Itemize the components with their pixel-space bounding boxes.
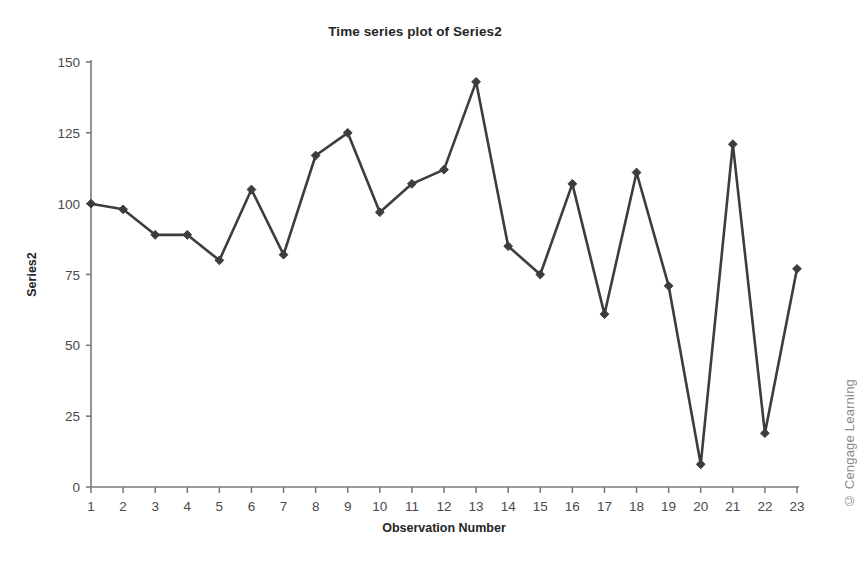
copyright-credit: © Cengage Learning: [842, 379, 857, 508]
data-point-marker: [247, 185, 256, 194]
x-tick-label: 19: [661, 499, 676, 514]
data-point-marker: [440, 165, 449, 174]
x-tick-label: 7: [280, 499, 288, 514]
data-point-marker: [279, 250, 288, 259]
x-tick-label: 18: [629, 499, 644, 514]
x-tick-label: 20: [693, 499, 708, 514]
data-point-marker: [472, 77, 481, 86]
y-tick-label: 125: [57, 126, 80, 141]
data-point-marker: [728, 140, 737, 149]
x-tick-label: 23: [789, 499, 804, 514]
data-point-marker: [632, 168, 641, 177]
x-tick-label: 2: [119, 499, 127, 514]
y-tick-label: 100: [57, 197, 80, 212]
x-tick-label: 1: [87, 499, 95, 514]
data-point-marker: [568, 179, 577, 188]
chart-figure: Time series plot of Series2 025507510012…: [0, 0, 863, 566]
x-tick-label: 15: [533, 499, 548, 514]
x-tick-label: 14: [501, 499, 517, 514]
y-tick-label: 0: [72, 480, 80, 495]
data-line-series2: [91, 82, 797, 465]
x-tick-label: 3: [151, 499, 159, 514]
y-tick-label: 25: [65, 409, 80, 424]
y-tick-label: 75: [65, 268, 80, 283]
x-axis-title: Observation Number: [382, 521, 506, 535]
x-tick-label: 5: [216, 499, 224, 514]
x-tick-label: 22: [757, 499, 772, 514]
data-point-marker: [87, 199, 96, 208]
y-tick-label: 50: [65, 338, 80, 353]
plot-area: 0255075100125150123456789101112131415161…: [0, 0, 863, 566]
x-tick-label: 9: [344, 499, 352, 514]
x-tick-label: 11: [405, 499, 419, 514]
x-tick-label: 12: [436, 499, 451, 514]
x-tick-label: 4: [184, 499, 192, 514]
x-tick-label: 6: [248, 499, 256, 514]
y-axis-title: Series2: [25, 252, 39, 297]
x-tick-label: 8: [312, 499, 320, 514]
data-point-marker: [600, 310, 609, 319]
x-tick-label: 17: [597, 499, 612, 514]
x-tick-label: 21: [725, 499, 740, 514]
x-tick-label: 13: [469, 499, 484, 514]
data-point-marker: [761, 429, 770, 438]
data-point-marker: [793, 264, 802, 273]
data-point-marker: [696, 460, 705, 469]
x-tick-label: 16: [565, 499, 580, 514]
x-tick-label: 10: [372, 499, 387, 514]
data-point-marker: [664, 281, 673, 290]
y-tick-label: 150: [57, 55, 80, 70]
